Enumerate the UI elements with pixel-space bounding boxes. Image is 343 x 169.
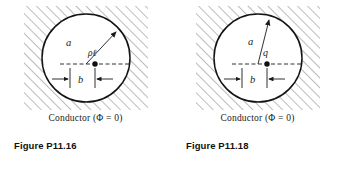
figure-sheet: a ρℓ b Conductor (Φ = 0) Figure P11.16 [0, 0, 343, 169]
offset-label-b: b [250, 74, 255, 85]
figure-label-right: Figure P11.18 [186, 140, 343, 151]
figure-p11-16: a ρℓ b Conductor (Φ = 0) Figure P11.16 [0, 0, 171, 169]
diagram-p11-18: a q b [172, 0, 343, 112]
diagram-svg-right: a q b [172, 0, 343, 112]
charge-label: ρℓ [87, 48, 97, 58]
caption-conductor-right: Conductor (Φ = 0) [172, 113, 343, 123]
diagram-svg-left: a ρℓ b [0, 0, 171, 112]
cavity-circle [42, 14, 130, 102]
offset-label-b: b [78, 74, 83, 85]
charge-dot [264, 61, 269, 66]
caption-conductor-left: Conductor (Φ = 0) [0, 113, 171, 123]
charge-dot [92, 61, 97, 66]
diagram-p11-16: a ρℓ b [0, 0, 171, 112]
figure-p11-18: a q b Conductor (Φ = 0) Figure P11.18 [172, 0, 343, 169]
charge-label: q [263, 47, 268, 58]
figure-label-left: Figure P11.16 [14, 140, 185, 151]
cavity-circle [214, 14, 302, 102]
radius-label-a: a [66, 37, 71, 48]
radius-label-a: a [248, 36, 253, 47]
